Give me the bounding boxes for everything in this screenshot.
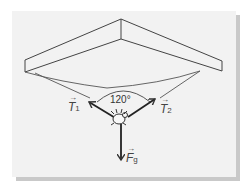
T2-vector (128, 99, 155, 117)
angle-label: 120° (110, 95, 131, 105)
ceiling-slab (25, 19, 222, 72)
T2-label: →T2 (160, 103, 172, 115)
T1-label: →T1 (68, 101, 80, 113)
Fg-label: →Fg (126, 152, 138, 164)
spider-icon (111, 109, 128, 125)
